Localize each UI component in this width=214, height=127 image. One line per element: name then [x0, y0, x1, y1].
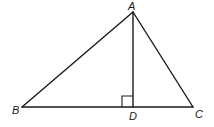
vertex-label-a: A	[127, 0, 135, 12]
vertex-label-b: B	[12, 104, 19, 116]
segment-ac	[133, 12, 193, 107]
triangle-diagram: A B C D	[0, 0, 214, 127]
point-label-d: D	[129, 110, 137, 122]
right-angle-marker-icon	[122, 96, 133, 107]
vertex-label-c: C	[195, 108, 203, 120]
segment-ab	[22, 12, 133, 107]
